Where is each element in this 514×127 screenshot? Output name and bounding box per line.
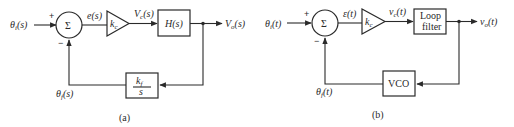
input-label-b: θi(t) xyxy=(265,18,282,31)
output-label-b: vo(t) xyxy=(480,16,498,29)
error-label-b: ε(t) xyxy=(343,8,357,20)
caption-b: (b) xyxy=(372,109,384,121)
minus-sign-b: − xyxy=(314,36,319,46)
feedback-label-a: θf(s) xyxy=(56,88,74,101)
pll-block-diagrams: θi(s) + − Σ e(s) kc Vc(s) H(s) Vo(s) xyxy=(0,0,514,127)
control-label-a: Vc(s) xyxy=(134,8,154,21)
input-label-a: θi(s) xyxy=(10,19,28,32)
diagram-b: θi(t) + − Σ ε(t) kc vc(t) Loop filter vo… xyxy=(265,6,498,121)
output-label-a: Vo(s) xyxy=(225,18,246,31)
control-label-b: vc(t) xyxy=(389,6,407,19)
filter-label-a: H(s) xyxy=(164,18,183,30)
feedback-path-left-b xyxy=(325,38,383,84)
minus-sign-a: − xyxy=(58,38,63,48)
feedback-label-b: θf(t) xyxy=(316,86,333,99)
plus-sign-a: + xyxy=(49,11,54,21)
sigma-symbol-b: Σ xyxy=(321,18,327,29)
plus-sign-b: + xyxy=(304,9,309,19)
filter-label-line2-b: filter xyxy=(422,21,442,32)
feedback-denominator-a: s xyxy=(139,86,143,97)
vco-label-b: VCO xyxy=(388,78,409,89)
feedback-path-left-a xyxy=(69,40,126,85)
error-label-a: e(s) xyxy=(87,10,103,22)
caption-a: (a) xyxy=(119,112,130,124)
filter-label-line1-b: Loop xyxy=(420,10,441,21)
sigma-symbol-a: Σ xyxy=(65,20,71,31)
diagram-a: θi(s) + − Σ e(s) kc Vc(s) H(s) Vo(s) xyxy=(10,8,246,124)
